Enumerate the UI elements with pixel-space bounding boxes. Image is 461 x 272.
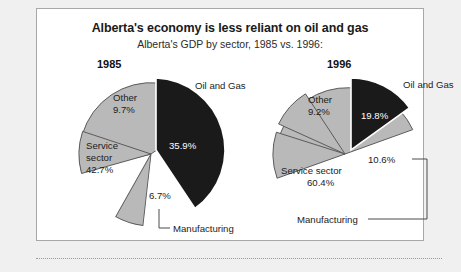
pie-chart-1985: 35.9% Oil and Gas Other 9.7% Service sec… [73, 71, 253, 239]
pie-label-service-1985-line1: Service [86, 140, 118, 151]
panel-year-1985: 1985 [97, 58, 121, 70]
page-title: Alberta's economy is less reliant on oil… [37, 21, 423, 35]
pie-value-oil-and-gas-1996: 19.8% [361, 110, 389, 121]
pie-label-oil-and-gas-1996: Oil and Gas [403, 79, 454, 90]
panel-year-1996: 1996 [327, 58, 351, 70]
figure-panel: Alberta's economy is less reliant on oil… [36, 8, 424, 241]
pie-value-other-1996: 9.2% [308, 106, 330, 117]
pie-label-service-1985-line2: sector [86, 152, 113, 163]
footer-divider [36, 258, 442, 259]
pie-value-manufacturing-1985: 6.7% [149, 190, 171, 201]
pie-value-other-1985: 9.7% [113, 104, 135, 115]
pie-label-manufacturing-1985: Manufacturing [173, 223, 234, 234]
pie-chart-1996: 19.8% Oil and Gas Other 9.2% Service sec… [275, 71, 455, 239]
pie-value-service-1996: 60.4% [307, 177, 335, 188]
pie-label-manufacturing-1996: Manufacturing [297, 214, 358, 225]
pie-label-other-1985: Other [113, 92, 138, 103]
pie-value-service-1985: 42.7% [86, 164, 114, 175]
pie-value-oil-and-gas-1985: 35.9% [169, 140, 197, 151]
chart-subtitle: Alberta's GDP by sector, 1985 vs. 1996: [37, 38, 423, 50]
pie-value-manufacturing-1996: 10.6% [368, 154, 396, 165]
leader-line-manufacturing-1996 [368, 159, 427, 219]
leader-line-manufacturing-1985 [159, 209, 170, 228]
pie-label-service-1996: Service sector [281, 165, 343, 176]
pie-label-oil-and-gas-1985: Oil and Gas [195, 80, 246, 91]
pie-label-other-1996: Other [308, 94, 333, 105]
